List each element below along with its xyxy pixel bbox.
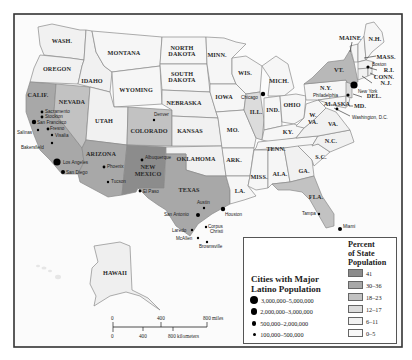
class-label: 30–36 (366, 282, 381, 289)
cities-title-line2: Latino Population (251, 284, 341, 294)
city-bakersfield: Bakersfield (21, 145, 44, 150)
swatch-30-36 (348, 281, 363, 289)
label-ca: CALIF. (28, 91, 49, 98)
label-wv-1: W. (309, 111, 317, 118)
city-dot-brownsville (206, 241, 208, 243)
city-austin: Austin (197, 200, 210, 205)
legend-size-100k-500k: 100,000–500,000 (250, 331, 304, 338)
city-tampa: Tampa (302, 211, 316, 216)
percent-title-line2: of State (348, 249, 396, 258)
swatch-0-5 (348, 329, 363, 337)
city-mcallen: McAllen (176, 236, 193, 241)
swatch-41 (348, 269, 363, 277)
label-wi: WIS. (238, 69, 252, 76)
city-dot-el-paso (139, 190, 142, 193)
city-albuquerque: Albuquerque (145, 155, 171, 160)
city-dot-austin (203, 207, 205, 209)
label-mo: MO. (227, 126, 240, 133)
city-phoenix: Phoenix (107, 164, 124, 169)
class-label: 18–23 (366, 294, 381, 301)
city-boston: Boston (372, 62, 387, 67)
swatch-12-17 (348, 305, 363, 313)
class-label: 12–17 (366, 306, 381, 313)
city-dot-albuquerque (141, 159, 144, 162)
label-in: IND. (266, 106, 280, 113)
scale-km-800: 800 kilometers (168, 333, 199, 339)
label-sc: S.C. (315, 153, 327, 160)
label-mn: MINN. (207, 51, 227, 58)
label-al: ALA. (272, 170, 287, 177)
legend-size-3m-5m: 3,000,000–5,000,000 (250, 296, 314, 304)
label-id: IDAHO (81, 77, 103, 84)
city-fresno: Fresno (50, 126, 65, 131)
scale-miles-800: 800 miles (203, 315, 223, 321)
city-dot-bakersfield (51, 142, 53, 144)
size-label: 100,000–500,000 (260, 331, 303, 338)
class-label: 6–11 (366, 318, 378, 325)
label-ma: R.I. (384, 66, 395, 73)
city-san-diego: San Diego (66, 170, 88, 175)
city-dot-denver (153, 119, 155, 121)
state-in (264, 96, 282, 130)
city-stockton: Stockton (45, 114, 63, 119)
city-dot-san-francisco (32, 120, 36, 124)
city-dot-sacramento (41, 111, 44, 114)
city-los-angeles: Los Angeles (63, 160, 89, 165)
label-nv: NEVADA (59, 98, 86, 105)
city-dot-chicago (261, 92, 265, 96)
percent-title-line1: Percent (348, 240, 396, 249)
label-md: ALASKA (324, 100, 351, 107)
legend-size-2m-3m: 2,000,000–3,000,000 (250, 308, 313, 315)
city-dot-laredo (191, 229, 193, 231)
scale-km-400: 400 (139, 333, 147, 339)
label-wv-2: VA. (308, 118, 318, 125)
label-fl: FLA. (309, 193, 324, 200)
city-salinas: Salinas (17, 130, 33, 135)
city-dot-corpus-christi (205, 226, 207, 228)
city-dot-salinas (37, 129, 39, 131)
city-san-antonio: San Antonio (164, 212, 189, 217)
size-label: 3,000,000–5,000,000 (261, 297, 314, 304)
city-dot-tampa (318, 213, 320, 215)
legend-class-41: 41 (348, 269, 372, 277)
swatch-18-23 (348, 293, 363, 301)
percent-title-line3: Population (348, 258, 396, 267)
city-laredo: Laredo (172, 228, 187, 233)
size-label: 500,000–2,000,000 (260, 320, 308, 327)
city-philadelphia: Philadelphia (313, 93, 338, 98)
label-ny: VT. (334, 66, 344, 73)
city-new-york: New York (358, 89, 378, 94)
legend-class-18-23: 18–23 (348, 293, 381, 301)
city-dot-san-antonio (196, 213, 200, 217)
city-corpus-christi-2: Christi (210, 229, 223, 234)
label-nc: N.C. (325, 137, 338, 144)
label-az: ARIZONA (86, 150, 116, 157)
label-sd-2: DAKOTA (168, 76, 196, 83)
scale-km-0: 0 (111, 333, 114, 339)
label-nm-1: NEW (140, 163, 156, 170)
label-il: ILL. (250, 108, 263, 115)
cities-title-line1: Cities with Major (251, 274, 341, 284)
city-dot-washington-dc (336, 108, 339, 111)
legend-class-0-5: 0–5 (348, 329, 375, 337)
city-visalia: Visalia (55, 133, 69, 138)
city-houston: Houston (225, 212, 243, 217)
swatch-6-11 (348, 317, 363, 325)
label-wy: WYOMING (119, 86, 153, 93)
label-ar: ARK. (226, 156, 242, 163)
city-dot-fresno (47, 128, 50, 131)
city-dot-stockton (41, 116, 44, 119)
city-dot-philadelphia (346, 93, 349, 96)
city-brownsville: Brownsville (199, 244, 223, 249)
label-tn: TENN. (266, 145, 286, 152)
legend-class-6-11: 6–11 (348, 317, 378, 325)
city-washington-dc: Washington, D.C. (352, 115, 388, 120)
legend-class-12-17: 12–17 (348, 305, 381, 313)
city-miami: Miami (343, 224, 355, 229)
city-dot-new-york (350, 81, 357, 88)
label-de: MD. (354, 102, 367, 109)
label-va: VA. (328, 120, 338, 127)
label-tx: TEXAS (178, 186, 200, 193)
scale-miles-400: 400 (157, 315, 165, 321)
label-mt: MONTANA (108, 49, 141, 56)
